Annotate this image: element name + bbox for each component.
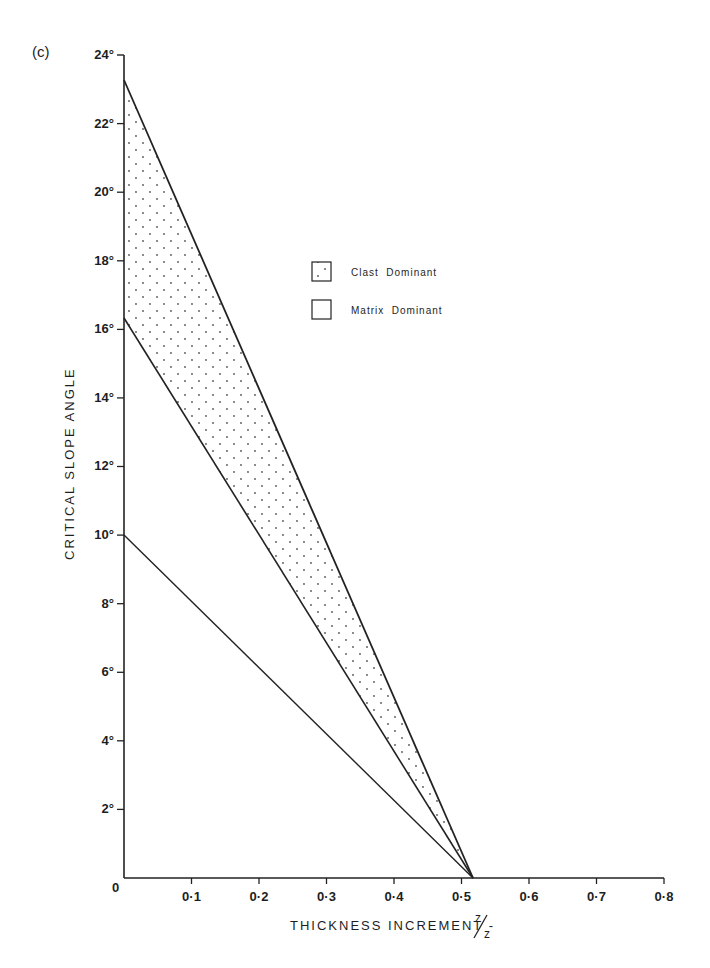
svg-text:Clast Dominant: Clast Dominant [351, 267, 437, 278]
panel-label: (c) [32, 43, 50, 60]
svg-text:Matrix Dominant: Matrix Dominant [351, 305, 443, 316]
svg-text:2°: 2° [102, 801, 114, 816]
svg-text:0·1: 0·1 [182, 889, 201, 904]
svg-text:0·8: 0·8 [655, 889, 674, 904]
legend-item-matrix: Matrix Dominant [312, 300, 443, 319]
svg-text:14°: 14° [94, 390, 114, 405]
x-ticks [192, 878, 665, 884]
legend-swatch-blank [312, 300, 331, 319]
svg-text:0·4: 0·4 [385, 889, 405, 904]
svg-text:z: z [484, 927, 492, 941]
y-tick-labels: 2° 4° 6° 8° 10° 12° 14° 16° 18° 20° 22° … [94, 47, 114, 816]
svg-text:0·3: 0·3 [317, 889, 336, 904]
clast-upper-line [124, 80, 473, 878]
svg-text:0·2: 0·2 [250, 889, 269, 904]
svg-text:24°: 24° [94, 47, 114, 62]
y-ticks [117, 124, 124, 810]
clast-lower-line [124, 318, 473, 878]
svg-text:20°: 20° [94, 184, 114, 199]
svg-text:22°: 22° [94, 116, 114, 131]
chart: (c) 2° 4° 6° 8° 10° 12° 14° 16° 18° 20° … [0, 0, 710, 968]
y-axis-title: CRITICAL SLOPE ANGLE [62, 367, 77, 560]
svg-text:18°: 18° [94, 253, 114, 268]
legend: Clast Dominant Matrix Dominant [312, 262, 443, 319]
svg-text:8°: 8° [102, 596, 114, 611]
origin-label: 0 [112, 880, 119, 895]
x-axis-title: THICKNESS INCREMENT - [290, 918, 495, 933]
svg-text:6°: 6° [102, 664, 114, 679]
legend-item-clast: Clast Dominant [312, 262, 437, 281]
svg-text:0·7: 0·7 [587, 889, 606, 904]
svg-text:0·6: 0·6 [520, 889, 539, 904]
svg-text:4°: 4° [102, 733, 114, 748]
svg-text:10°: 10° [94, 527, 114, 542]
svg-text:0·5: 0·5 [452, 889, 471, 904]
x-tick-labels: 0·1 0·2 0·3 0·4 0·5 0·6 0·7 0·8 [182, 889, 673, 904]
svg-text:16°: 16° [94, 321, 114, 336]
svg-text:12°: 12° [94, 458, 114, 473]
legend-swatch-dotted [312, 262, 331, 281]
